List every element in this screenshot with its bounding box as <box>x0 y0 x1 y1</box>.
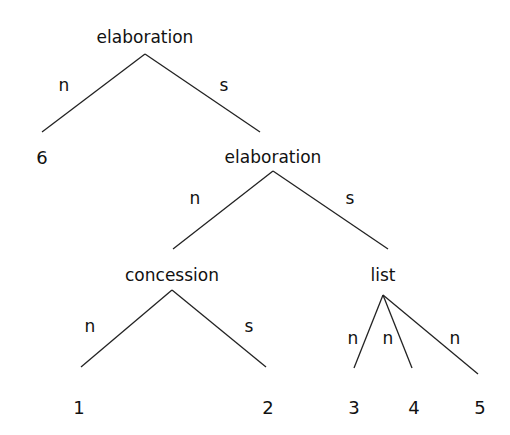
edge-list-n3 <box>383 295 478 374</box>
edge-label-list-n2: n <box>383 328 394 348</box>
leaf-1: 1 <box>73 397 84 418</box>
leaf-3: 3 <box>348 397 359 418</box>
edge-label-list-n3: n <box>450 328 461 348</box>
edge-label-concession-s: s <box>245 316 254 336</box>
edge-label-elab2-s: s <box>346 188 355 208</box>
tree-edges <box>42 54 478 374</box>
leaf-2: 2 <box>262 397 273 418</box>
node-root-elaboration: elaboration <box>97 27 194 47</box>
edge-elab2-s <box>273 171 388 249</box>
leaf-5: 5 <box>474 397 485 418</box>
edge-label-root-n: n <box>59 75 70 95</box>
edge-label-list-n1: n <box>348 328 359 348</box>
leaf-4: 4 <box>408 397 419 418</box>
edge-root-n <box>42 54 145 132</box>
node-list: list <box>371 265 396 285</box>
node-concession: concession <box>125 265 219 285</box>
edge-elab2-n <box>173 171 273 249</box>
edge-label-concession-n: n <box>85 316 96 336</box>
rst-tree-diagram: elaboration 6 elaboration concession lis… <box>0 0 510 435</box>
edge-root-s <box>145 54 260 132</box>
tree-svg: elaboration 6 elaboration concession lis… <box>0 0 510 435</box>
edge-label-elab2-n: n <box>190 188 201 208</box>
edge-label-root-s: s <box>220 75 229 95</box>
node-elaboration-2: elaboration <box>225 147 322 167</box>
leaf-6: 6 <box>36 147 47 168</box>
